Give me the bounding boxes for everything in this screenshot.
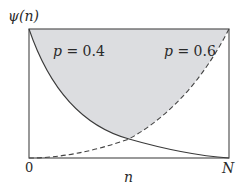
x-axis-label: n xyxy=(124,169,133,185)
p-var: p xyxy=(164,43,173,59)
p-var: p xyxy=(53,43,62,59)
p-value: = 0.4 xyxy=(62,43,105,59)
curve-label-p06: p = 0.6 xyxy=(164,43,216,59)
x-tick-zero: 0 xyxy=(25,160,33,175)
curve-label-p04: p = 0.4 xyxy=(53,43,105,59)
diagram-canvas xyxy=(0,0,247,192)
y-axis-label: ψ(n) xyxy=(8,8,39,24)
x-tick-N: N xyxy=(222,160,234,176)
p-value: = 0.6 xyxy=(173,43,216,59)
